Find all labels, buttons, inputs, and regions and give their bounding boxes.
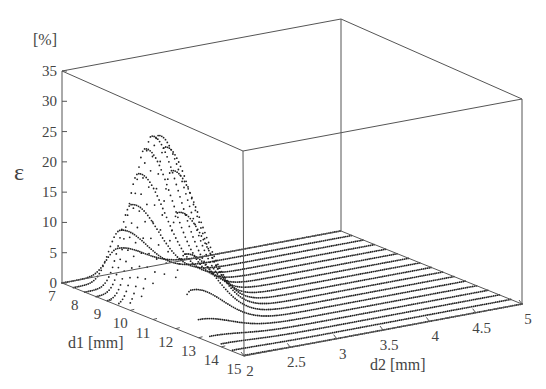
d1-tick-label: 10: [113, 315, 128, 331]
d1-tick-label: 12: [158, 334, 173, 350]
d1-tick-label: 14: [204, 352, 220, 368]
d1-tick-label: 15: [227, 361, 242, 377]
d2-tick-label: 5: [524, 311, 532, 327]
3d-scatter-chart: 0510152025303578910111213141522.533.544.…: [0, 0, 546, 389]
z-tick-label: 30: [42, 93, 57, 109]
z-tick-label: 5: [50, 245, 58, 261]
z-tick-label: 10: [42, 214, 57, 230]
z-tick-label: 15: [42, 184, 57, 200]
z-tick-label: 20: [42, 154, 57, 170]
d2-tick-label: 2: [246, 363, 254, 379]
bounding-box: [62, 19, 522, 356]
z-tick-label: 25: [42, 124, 57, 140]
d1-tick-label: 7: [48, 288, 56, 304]
d1-tick-label: 11: [136, 325, 150, 341]
y-axis-title: d2 [mm]: [370, 356, 426, 373]
d1-tick-label: 9: [94, 306, 102, 322]
z-unit-label: [%]: [33, 31, 57, 48]
z-axis-title: ε: [14, 159, 24, 185]
d2-tick-label: 4: [432, 328, 440, 344]
d1-tick-label: 8: [71, 297, 79, 313]
data-points: [61, 135, 523, 357]
d2-tick-label: 4.5: [472, 320, 491, 336]
d2-tick-label: 3.5: [380, 337, 399, 353]
d1-tick-label: 13: [181, 343, 196, 359]
d2-tick-label: 2.5: [287, 354, 306, 370]
x-axis-title: d1 [mm]: [68, 334, 124, 351]
z-tick-label: 35: [42, 63, 57, 79]
d2-tick-label: 3: [339, 346, 347, 362]
